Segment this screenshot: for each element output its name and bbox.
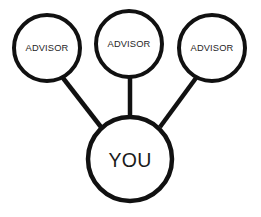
you-label: YOU <box>108 149 151 171</box>
advisor-network-diagram: ADVISOR ADVISOR ADVISOR YOU <box>0 0 261 217</box>
node-advisor-right[interactable]: ADVISOR <box>179 15 245 81</box>
edge-advisor-right-to-you <box>160 78 196 127</box>
advisor-center-label: ADVISOR <box>108 39 151 49</box>
node-advisor-left[interactable]: ADVISOR <box>14 15 80 81</box>
diagram-canvas: ADVISOR ADVISOR ADVISOR YOU <box>0 0 261 217</box>
advisor-left-label: ADVISOR <box>26 43 69 53</box>
node-advisor-center[interactable]: ADVISOR <box>96 11 162 77</box>
edge-advisor-left-to-you <box>63 78 101 127</box>
node-you[interactable]: YOU <box>88 117 172 201</box>
advisor-right-label: ADVISOR <box>191 43 234 53</box>
